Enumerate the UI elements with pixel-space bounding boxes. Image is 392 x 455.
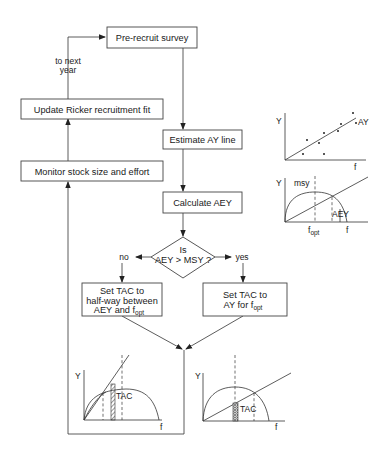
no-chart-tac-label: TAC xyxy=(116,391,132,401)
ay-scatter-chart: Y AY f xyxy=(276,112,369,172)
yes-chart-y-label: Y xyxy=(195,371,201,381)
no-action-line-1: Set TAC to xyxy=(100,286,144,296)
msy-chart-y-label: Y xyxy=(276,178,282,188)
ay-chart-x-label: f xyxy=(354,162,357,172)
no-chart-y-label: Y xyxy=(75,371,81,381)
no-chart-x-label: f xyxy=(160,422,163,432)
msy-chart-x-label: f xyxy=(346,225,349,235)
msy-label: msy xyxy=(294,178,310,188)
no-action-line-2: half-way between xyxy=(86,296,158,306)
yes-action-line-2-main: AY for f xyxy=(224,300,254,310)
msy-aey-chart: Y msy AEY fopt f xyxy=(276,176,368,237)
decision-line-1: Is xyxy=(179,245,187,255)
ay-chart-line-label: AY xyxy=(358,117,369,127)
yes-chart-tac-label: TAC xyxy=(240,404,256,414)
connectors xyxy=(68,37,243,434)
no-action-box: Set TAC to half-way between AEY and fopt xyxy=(82,283,162,317)
to-next-year-label-2: year xyxy=(60,65,77,75)
arrow-merge-left xyxy=(122,316,182,349)
ay-chart-y-label: Y xyxy=(276,116,282,126)
calculate-aey-label: Calculate AEY xyxy=(173,198,232,208)
pre-recruit-survey-box: Pre-recruit survey xyxy=(107,27,197,48)
fopt-sub: opt xyxy=(310,229,319,237)
yes-branch-chart: Y TAC f xyxy=(195,355,291,432)
update-ricker-label: Update Ricker recruitment fit xyxy=(34,105,151,115)
decision-diamond: Is AEY > MSY ? xyxy=(151,237,215,278)
yes-action-line-2-sub: opt xyxy=(253,304,262,312)
no-label: no xyxy=(119,252,129,262)
no-action-line-3-sub: opt xyxy=(135,309,144,317)
yes-action-line-1: Set TAC to xyxy=(223,290,267,300)
monitor-label: Monitor stock size and effort xyxy=(35,167,150,177)
yes-action-box: Set TAC to AY for fopt xyxy=(203,283,287,316)
update-ricker-box: Update Ricker recruitment fit xyxy=(21,99,163,119)
decision-line-2: AEY > MSY ? xyxy=(155,255,211,265)
no-action-line-3-main: AEY and f xyxy=(94,305,136,315)
pre-recruit-label: Pre-recruit survey xyxy=(116,33,189,43)
management-flowchart: Pre-recruit survey to next year Update R… xyxy=(0,0,392,455)
calculate-aey-box: Calculate AEY xyxy=(163,192,242,213)
yes-chart-x-label: f xyxy=(275,422,278,432)
arrow-merge-right xyxy=(186,316,243,349)
estimate-ay-label: Estimate AY line xyxy=(169,135,235,145)
no-branch-chart: Y TAC f xyxy=(75,355,163,432)
fopt-label: fopt xyxy=(308,225,320,237)
yes-label: yes xyxy=(235,252,248,262)
monitor-box: Monitor stock size and effort xyxy=(21,161,163,181)
estimate-ay-box: Estimate AY line xyxy=(163,130,242,149)
aey-label: AEY xyxy=(332,209,349,219)
